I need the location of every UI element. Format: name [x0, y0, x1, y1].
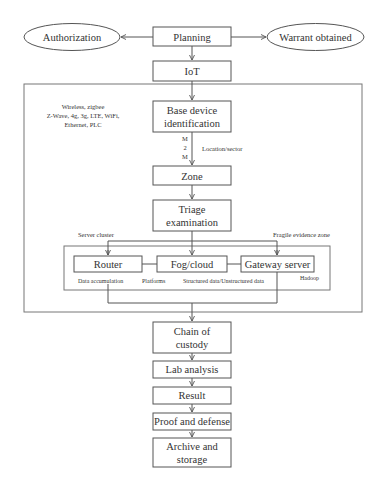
node-result-label: Result [179, 390, 206, 401]
platforms-annotation: Platforms [142, 278, 166, 284]
server-cluster-annotation: Server cluster [78, 231, 115, 238]
node-fog-cloud-label: Fog/cloud [171, 259, 214, 270]
node-base-device-label-1: Base device [167, 105, 218, 116]
node-gateway: Gateway server [241, 256, 314, 272]
node-archive-storage: Archive and storage [153, 438, 231, 467]
node-archive-label-2: storage [177, 454, 208, 465]
node-base-device-label-2: identification [164, 118, 221, 129]
node-authorization: Authorization [24, 24, 120, 51]
node-chain-label-1: Chain of [174, 326, 211, 337]
node-iot: IoT [153, 61, 231, 81]
m2m-m1: M [182, 135, 188, 142]
node-planning: Planning [153, 27, 231, 46]
node-proof-defense: Proof and defense [153, 413, 231, 430]
m2m-annotation: M 2 M [182, 135, 188, 160]
node-zone-label: Zone [181, 171, 203, 182]
node-fog-cloud: Fog/cloud [157, 256, 227, 272]
node-chain-label-2: custody [176, 339, 209, 350]
protocols-line-3: Ethernet, PLC [64, 121, 101, 128]
node-lab-analysis: Lab analysis [153, 361, 231, 378]
edge-merge [108, 272, 277, 303]
node-router: Router [74, 256, 142, 272]
m2m-2: 2 [183, 144, 186, 151]
data-accumulation-annotation: Data accumulation [78, 278, 123, 284]
protocols-line-2: Z-Wave, 4g, 3g, LTE, WiFi, [47, 112, 120, 119]
node-warrant: Warrant obtained [267, 24, 364, 51]
flowchart: Authorization Planning Warrant obtained … [0, 0, 383, 486]
node-lab-label: Lab analysis [166, 364, 219, 375]
node-archive-label-1: Archive and [166, 441, 218, 452]
node-iot-label: IoT [184, 66, 200, 77]
hadoop-annotation: Hadoop [300, 275, 319, 281]
node-gateway-label: Gateway server [245, 259, 311, 270]
protocols-line-1: Wireless, zigbee [62, 103, 105, 110]
fragile-evidence-zone-annotation: Fragile evidence zone [273, 231, 330, 238]
node-proof-label: Proof and defense [154, 416, 230, 427]
protocols-annotation: Wireless, zigbee Z-Wave, 4g, 3g, LTE, Wi… [47, 103, 120, 128]
node-triage-label-1: Triage [178, 204, 205, 215]
node-planning-label: Planning [173, 32, 211, 43]
node-warrant-label: Warrant obtained [279, 32, 352, 43]
location-sector-annotation: Location/sector [202, 145, 243, 152]
node-triage-label-2: examination [166, 217, 219, 228]
node-result: Result [153, 387, 231, 404]
m2m-m2: M [182, 153, 188, 160]
structured-data-annotation: Structured data/Unstructured data [183, 278, 264, 284]
node-triage: Triage examination [153, 200, 231, 231]
node-base-device: Base device identification [153, 101, 231, 132]
node-chain-of-custody: Chain of custody [153, 322, 231, 353]
node-authorization-label: Authorization [43, 32, 102, 43]
node-zone: Zone [153, 166, 231, 185]
node-router-label: Router [94, 259, 123, 270]
